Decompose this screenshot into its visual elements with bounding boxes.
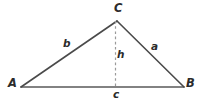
side-a-line [117, 21, 184, 87]
triangle-svg [0, 0, 202, 101]
altitude-label-h: h [117, 49, 124, 60]
vertex-label-b: B [186, 78, 195, 90]
vertex-label-a: A [8, 78, 17, 90]
side-label-b: b [63, 38, 71, 49]
side-b-line [21, 21, 117, 87]
side-label-c: c [113, 89, 119, 100]
vertex-label-c: C [114, 3, 122, 15]
triangle-diagram: A B C b a c h [0, 0, 202, 101]
side-label-a: a [151, 41, 158, 52]
